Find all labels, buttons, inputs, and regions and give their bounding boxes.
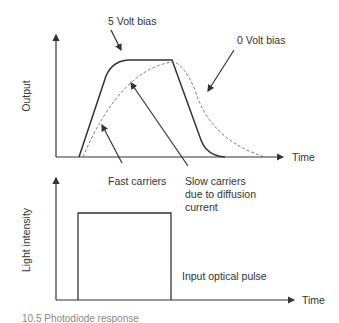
fast-carriers-label: Fast carriers (108, 175, 166, 187)
five-volt-arrow (111, 30, 121, 50)
zero-volt-label: 0 Volt bias (237, 34, 285, 46)
figure-caption: 10.5 Photodiode response (22, 313, 139, 323)
top-plot: Output Time 5 Volt bias 0 Volt bias Fast… (20, 15, 315, 213)
bottom-y-label: Light intensity (20, 207, 32, 272)
bottom-plot: Light intensity Time Input optical pulse (20, 178, 325, 306)
top-y-label: Output (20, 80, 32, 112)
slow-carriers-arrow (131, 83, 188, 166)
top-x-label: Time (292, 151, 315, 163)
bottom-x-label: Time (302, 294, 325, 306)
slow-carriers-line2: due to diffusion (185, 188, 256, 200)
diagram-canvas: Output Time 5 Volt bias 0 Volt bias Fast… (0, 0, 339, 323)
slow-carriers-line3: current (185, 201, 218, 213)
zero-volt-curve (83, 62, 265, 157)
five-volt-label: 5 Volt bias (108, 15, 156, 27)
slow-carriers-line1: Slow carriers (185, 175, 246, 187)
optical-pulse (78, 213, 171, 300)
five-volt-curve (79, 60, 225, 157)
pulse-label: Input optical pulse (182, 270, 267, 282)
zero-volt-arrow (208, 50, 234, 91)
